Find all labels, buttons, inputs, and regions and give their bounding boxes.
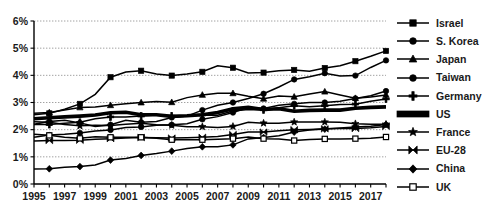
legend-item-eu-28[interactable]: EU-28 (396, 141, 493, 159)
chart-root: 0%1%2%3%4%5%6%19951997199920012003200520… (0, 0, 493, 218)
series-china (34, 121, 389, 172)
x-axis-label-2007: 2007 (206, 190, 230, 202)
x-axis-label-2001: 2001 (114, 190, 138, 202)
legend-item-uk[interactable]: UK (396, 178, 493, 196)
legend-label-s-korea: S. Korea (432, 36, 479, 47)
series-us (34, 107, 386, 119)
x-axis-label-2009: 2009 (237, 190, 261, 202)
x-axis-label-2013: 2013 (298, 190, 322, 202)
legend-label-us: US (432, 109, 451, 120)
legend-key-us (396, 105, 432, 123)
x-axis-label-2015: 2015 (328, 190, 352, 202)
series-uk (34, 133, 389, 143)
legend-label-taiwan: Taiwan (432, 72, 471, 83)
series-israel (34, 48, 389, 116)
legend-item-germany[interactable]: Germany (396, 87, 493, 105)
legend-key-israel (396, 14, 432, 32)
legend-item-us[interactable]: US (396, 105, 493, 123)
y-axis-label-2: 2% (13, 123, 29, 135)
x-axis-label-1995: 1995 (22, 190, 46, 202)
x-axis-label-2017: 2017 (359, 190, 383, 202)
legend-key-uk (396, 178, 432, 196)
x-axis-label-2005: 2005 (175, 190, 199, 202)
x-axis-label-1999: 1999 (84, 190, 108, 202)
y-axis-label-5: 5% (13, 42, 29, 54)
legend-label-israel: Israel (432, 18, 463, 29)
legend-item-s-korea[interactable]: S. Korea (396, 32, 493, 50)
legend-key-eu-28 (396, 141, 432, 159)
legend-key-s-korea (396, 32, 432, 50)
y-axis-label-1: 1% (13, 151, 29, 163)
legend-item-israel[interactable]: Israel (396, 14, 493, 32)
legend-key-japan (396, 50, 432, 68)
legend-label-uk: UK (432, 182, 451, 193)
y-axis-label-4: 4% (13, 69, 29, 81)
legend-item-france[interactable]: France (396, 123, 493, 141)
y-axis-label-3: 3% (13, 96, 29, 108)
legend-label-germany: Germany (432, 91, 482, 102)
x-axis-label-1997: 1997 (53, 190, 77, 202)
legend-label-china: China (432, 163, 465, 174)
legend-item-taiwan[interactable]: Taiwan (396, 69, 493, 87)
legend-label-france: France (432, 127, 470, 138)
legend-label-japan: Japan (432, 54, 466, 65)
y-axis-label-6: 6% (13, 15, 29, 27)
legend-key-china (396, 160, 432, 178)
legend-key-france (396, 123, 432, 141)
legend-item-japan[interactable]: Japan (396, 50, 493, 68)
x-axis-label-2011: 2011 (267, 190, 290, 202)
legend-key-germany (396, 87, 432, 105)
x-axis-label-2003: 2003 (145, 190, 169, 202)
legend-key-taiwan (396, 69, 432, 87)
line-chart: 0%1%2%3%4%5%6%19951997199920012003200520… (0, 0, 393, 218)
chart-legend: Israel S. Korea Japan Taiwan Germany US … (396, 14, 493, 196)
legend-item-china[interactable]: China (396, 160, 493, 178)
legend-label-eu-28: EU-28 (432, 145, 466, 156)
plot-area: 0%1%2%3%4%5%6%19951997199920012003200520… (0, 0, 393, 218)
y-axis-label-0: 0% (13, 178, 29, 190)
